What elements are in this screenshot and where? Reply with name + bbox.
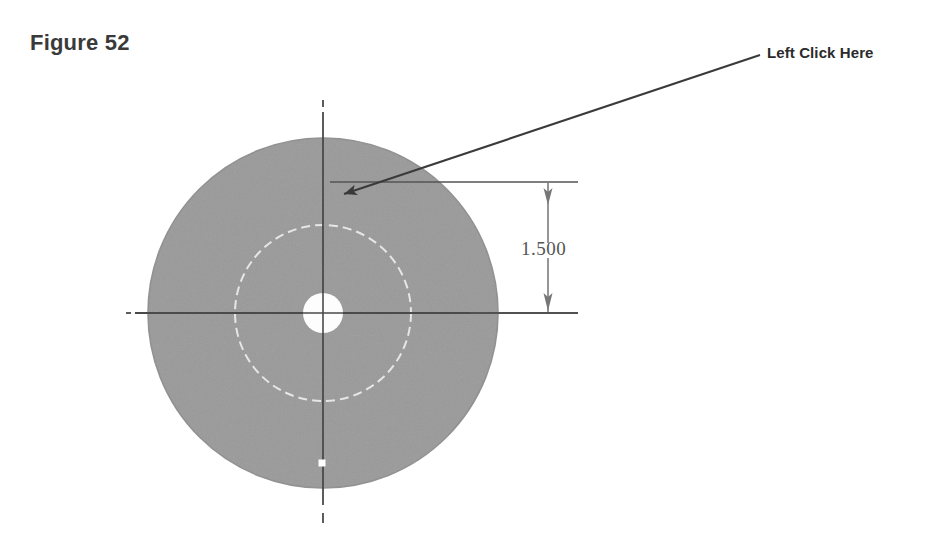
center-bore (303, 293, 343, 333)
page-title: Figure 52 (30, 30, 130, 56)
cad-drawing (0, 0, 943, 553)
callout-label: Left Click Here (767, 44, 874, 61)
sketch-point-marker (319, 460, 326, 467)
dimension-value-label: 1.500 (521, 238, 566, 260)
callout-leader-line (344, 55, 760, 194)
figure-canvas: Figure 52 Left Click Here 1.500 (0, 0, 943, 553)
